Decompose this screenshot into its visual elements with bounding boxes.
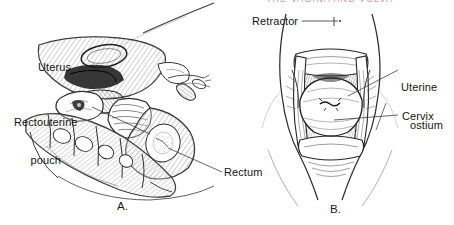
anatomy-figure: THE VAGINA AND VULVA — [0, 0, 454, 225]
panel-b-artwork — [262, 14, 398, 206]
label-uterine-ostium: Uterine ostium — [401, 56, 443, 156]
label-rectum: Rectum — [224, 166, 263, 179]
label-rectouterine-line1: Rectouterine — [14, 116, 78, 129]
label-rectouterine-line2: pouch — [14, 154, 78, 167]
label-uterine-ostium-line1: Uterine — [401, 81, 443, 94]
label-retractor: Retractor — [252, 15, 298, 28]
label-uterus: Uterus — [38, 61, 71, 74]
panel-letter-a: A. — [117, 200, 128, 212]
label-cervix: Cervix — [402, 110, 434, 123]
leader-retractor-dot — [339, 20, 341, 22]
panel-letter-b: B. — [330, 203, 341, 215]
label-rectouterine-pouch: Rectouterine pouch — [14, 91, 78, 191]
